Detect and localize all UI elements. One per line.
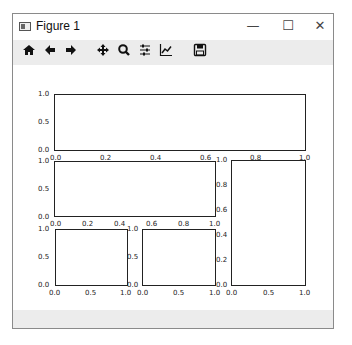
axes-4-frame[interactable]	[55, 229, 128, 286]
close-button[interactable]: ✕	[305, 16, 335, 36]
axes-1-ytick: 1.0	[38, 90, 49, 98]
axes-5-frame[interactable]	[142, 229, 216, 286]
axes-2-ytick: 0.5	[38, 185, 49, 193]
axes-5-xtick: 1.0	[209, 289, 220, 297]
axes-3-frame[interactable]	[231, 160, 306, 286]
edit-axes-icon[interactable]	[157, 43, 175, 61]
axes-4-xtick: 1.0	[120, 289, 131, 297]
figure-canvas[interactable]: 1.0 0.5 0.0 0.0 0.2 0.4 0.6 0.8 1.0 1.0 …	[13, 65, 333, 311]
axes-3-xtick: 1.0	[299, 289, 310, 297]
back-arrow-icon[interactable]	[41, 43, 59, 61]
status-bar	[13, 310, 333, 328]
axes-5-xtick: 0.0	[137, 289, 148, 297]
axes-3-ytick: 1.0	[216, 156, 227, 164]
zoom-magnifier-icon[interactable]	[115, 43, 133, 61]
axes-3-xtick: 0.0	[226, 289, 237, 297]
axes-3-xtick: 0.5	[263, 289, 274, 297]
figure-window: Figure 1 — ☐ ✕	[12, 13, 334, 329]
axes-2-ytick: 0.0	[38, 213, 49, 221]
axes-2-xtick: 0.0	[50, 220, 61, 228]
configure-subplots-icon[interactable]	[136, 43, 154, 61]
axes-1-frame[interactable]	[54, 94, 306, 151]
axes-1-ytick: 0.0	[38, 146, 49, 154]
window-title: Figure 1	[36, 19, 80, 33]
axes-3-ytick: 0.6	[216, 206, 227, 214]
axes-4-ytick: 0.0	[38, 281, 49, 289]
axes-4-xtick: 0.0	[49, 289, 60, 297]
axes-4-xtick: 0.5	[85, 289, 96, 297]
maximize-button[interactable]: ☐	[273, 16, 303, 36]
axes-2-xtick: 0.2	[82, 220, 93, 228]
axes-5-xtick: 0.5	[173, 289, 184, 297]
axes-3-ytick: 0.4	[216, 231, 227, 239]
axes-5-ytick: 0.0	[127, 281, 138, 289]
axes-5-ytick: 0.5	[127, 253, 138, 261]
navigation-toolbar	[13, 40, 333, 65]
forward-arrow-icon[interactable]	[62, 43, 80, 61]
axes-2-xtick: 0.6	[146, 220, 157, 228]
axes-2-frame[interactable]	[54, 161, 216, 217]
axes-4-ytick: 1.0	[38, 225, 49, 233]
title-bar[interactable]: Figure 1 — ☐ ✕	[13, 14, 333, 40]
minimize-button[interactable]: —	[238, 16, 268, 36]
save-floppy-icon[interactable]	[191, 43, 209, 61]
axes-3-ytick: 0.8	[216, 181, 227, 189]
axes-1-ytick: 0.5	[38, 118, 49, 126]
axes-2-xtick: 1.0	[209, 220, 220, 228]
axes-3-ytick: 0.2	[216, 256, 227, 264]
axes-2-xtick: 0.4	[114, 220, 125, 228]
axes-4-ytick: 0.5	[38, 253, 49, 261]
figure-app-icon	[19, 22, 31, 31]
axes-2-ytick: 1.0	[38, 157, 49, 165]
axes-2-xtick: 0.8	[178, 220, 189, 228]
axes-5-ytick: 1.0	[127, 225, 138, 233]
axes-3-ytick: 0.0	[216, 281, 227, 289]
home-icon[interactable]	[20, 43, 38, 61]
pan-move-icon[interactable]	[94, 43, 112, 61]
